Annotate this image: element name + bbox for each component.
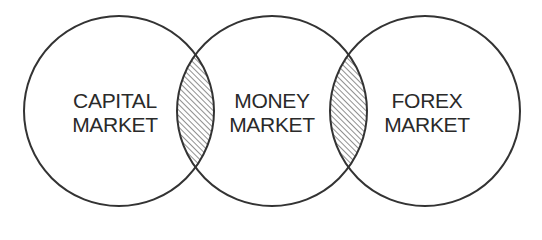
label-forex-market: FOREX MARKET [367,89,487,137]
label-line-1: FOREX [367,89,487,113]
label-line-2: MARKET [55,113,175,137]
label-capital-market: CAPITAL MARKET [55,89,175,137]
label-line-1: CAPITAL [55,89,175,113]
label-line-1: MONEY [212,89,332,113]
label-money-market: MONEY MARKET [212,89,332,137]
label-line-2: MARKET [367,113,487,137]
label-line-2: MARKET [212,113,332,137]
